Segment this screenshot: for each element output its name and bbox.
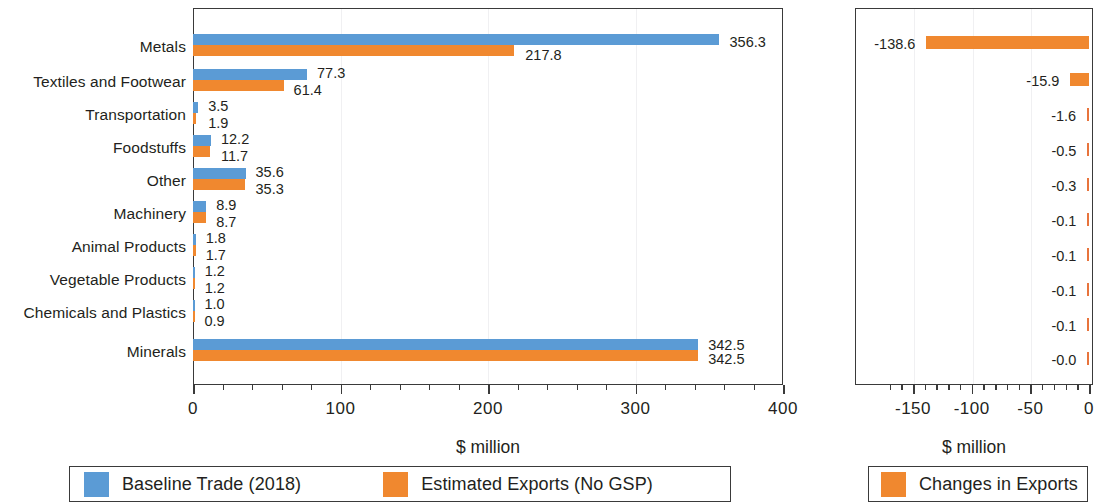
left-chart-major-tick [636, 385, 638, 394]
left-chart-legend-label: Baseline Trade (2018) [122, 474, 301, 495]
left-chart-minor-tick [754, 385, 755, 390]
left-chart-value-baseline: 12.2 [221, 132, 249, 147]
figure-root: MetalsTextiles and FootwearTransportatio… [0, 0, 1115, 502]
left-chart-value-estimated: 35.3 [256, 182, 284, 197]
right-chart-bar-change [1087, 283, 1089, 296]
left-chart-minor-tick [429, 385, 430, 390]
left-chart-minor-tick [606, 385, 607, 390]
right-chart-value-label: -0.1 [1051, 214, 1076, 229]
left-chart-bar-estimated [193, 245, 196, 256]
right-chart-major-tick [1089, 385, 1091, 394]
right-chart-major-tick [1030, 385, 1032, 394]
left-chart-bar-baseline [193, 300, 195, 311]
left-chart-value-baseline: 1.2 [205, 264, 225, 279]
left-chart-bars-layer: 356.3217.877.361.43.51.912.211.735.635.3… [0, 0, 800, 390]
left-chart-bar-estimated [193, 146, 210, 157]
right-chart-bar-change [1087, 352, 1089, 365]
legend-swatch-icon [84, 472, 109, 497]
left-chart-value-baseline: 3.5 [208, 99, 228, 114]
right-chart-tick-label: -100 [954, 399, 990, 419]
left-chart-bar-baseline [193, 135, 211, 146]
right-chart-minor-tick [936, 385, 937, 390]
right-chart-minor-tick [1066, 385, 1067, 390]
left-chart-value-baseline: 35.6 [256, 165, 284, 180]
left-chart-minor-tick [518, 385, 519, 390]
right-chart-tick-label: 0 [1084, 399, 1094, 419]
left-chart-value-estimated: 217.8 [525, 48, 561, 63]
left-chart-baseline-vs-estimated: MetalsTextiles and FootwearTransportatio… [0, 0, 800, 502]
left-chart-bar-baseline [193, 34, 719, 45]
right-chart-value-label: -0.0 [1051, 353, 1076, 368]
right-chart-x-tick-labels: -150-100-500 [850, 399, 1115, 423]
left-chart-major-tick [341, 385, 343, 394]
right-chart-major-tick [913, 385, 915, 394]
left-chart-bar-estimated [193, 212, 206, 223]
right-chart-bars-layer: -138.6-15.9-1.6-0.5-0.3-0.1-0.1-0.1-0.1-… [850, 0, 1115, 390]
legend-swatch-icon [383, 472, 408, 497]
right-chart-minor-tick [890, 385, 891, 390]
left-chart-bar-baseline [193, 234, 196, 245]
right-chart-minor-tick [901, 385, 902, 390]
left-chart-value-baseline: 77.3 [317, 66, 345, 81]
left-chart-value-baseline: 8.9 [216, 198, 236, 213]
right-chart-bar-change [1070, 73, 1089, 86]
right-chart-value-label: -15.9 [1026, 74, 1059, 89]
left-chart-x-tick-labels: 0100200300400 [0, 399, 800, 423]
left-chart-value-estimated: 342.5 [708, 352, 744, 367]
right-chart-minor-tick [1077, 385, 1078, 390]
left-chart-bar-baseline [193, 102, 198, 113]
left-chart-minor-tick [665, 385, 666, 390]
right-chart-legend: Changes in Exports [868, 466, 1088, 502]
right-chart-minor-tick [1007, 385, 1008, 390]
left-chart-tick-label: 100 [326, 399, 356, 419]
right-chart-minor-tick [925, 385, 926, 390]
right-chart-minor-tick [983, 385, 984, 390]
left-chart-legend-label: Estimated Exports (No GSP) [421, 474, 653, 495]
left-chart-legend: Baseline Trade (2018)Estimated Exports (… [69, 466, 731, 502]
left-chart-bar-baseline [193, 201, 206, 212]
right-chart-value-label: -0.1 [1051, 249, 1076, 264]
left-chart-tick-label: 400 [768, 399, 798, 419]
left-chart-minor-tick [724, 385, 725, 390]
right-chart-value-label: -0.1 [1051, 319, 1076, 334]
right-chart-minor-tick [960, 385, 961, 390]
right-chart-value-label: -138.6 [874, 37, 915, 52]
left-chart-value-estimated: 1.7 [206, 248, 226, 263]
left-chart-minor-tick [577, 385, 578, 390]
left-chart-legend-item[interactable]: Estimated Exports (No GSP) [383, 472, 653, 497]
left-chart-bar-baseline [193, 339, 698, 350]
right-chart-tick-label: -50 [1017, 399, 1043, 419]
left-chart-x-axis-title: $ million [193, 437, 783, 458]
left-chart-bar-estimated [193, 311, 195, 322]
right-chart-x-axis-title: $ million [855, 437, 1093, 458]
left-chart-tick-label: 0 [188, 399, 198, 419]
right-chart-bar-change [1087, 178, 1089, 191]
left-chart-bar-estimated [193, 350, 698, 361]
left-chart-bar-estimated [193, 45, 514, 56]
left-chart-minor-tick [223, 385, 224, 390]
right-chart-value-label: -0.3 [1051, 179, 1076, 194]
left-chart-legend-item[interactable]: Baseline Trade (2018) [84, 472, 301, 497]
left-chart-bar-baseline [193, 267, 195, 278]
left-chart-bar-estimated [193, 278, 195, 289]
right-chart-minor-tick [1054, 385, 1055, 390]
legend-swatch-icon [881, 472, 906, 497]
left-chart-major-tick [193, 385, 195, 394]
left-chart-major-tick [783, 385, 785, 394]
left-chart-value-estimated: 0.9 [204, 314, 224, 329]
left-chart-minor-tick [547, 385, 548, 390]
right-chart-minor-tick [995, 385, 996, 390]
right-chart-value-label: -0.5 [1051, 144, 1076, 159]
left-chart-value-estimated: 1.2 [205, 281, 225, 296]
right-chart-major-tick [972, 385, 974, 394]
left-chart-value-estimated: 11.7 [221, 149, 248, 164]
left-chart-minor-tick [311, 385, 312, 390]
left-chart-x-ticks [193, 385, 783, 394]
left-chart-bar-baseline [193, 168, 246, 179]
left-chart-bar-estimated [193, 179, 245, 190]
right-chart-legend-item[interactable]: Changes in Exports [881, 472, 1078, 497]
left-chart-value-estimated: 1.9 [208, 116, 228, 131]
left-chart-value-baseline: 356.3 [730, 35, 766, 50]
left-chart-major-tick [488, 385, 490, 394]
right-chart-bar-change [1087, 248, 1089, 261]
